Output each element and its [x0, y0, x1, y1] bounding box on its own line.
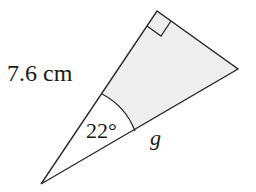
unknown-side-label: g	[150, 127, 161, 149]
angle-label: 22°	[86, 120, 117, 142]
side-length-label: 7.6 cm	[7, 61, 72, 85]
triangle-diagram	[0, 0, 256, 192]
shaded-region	[102, 11, 238, 131]
